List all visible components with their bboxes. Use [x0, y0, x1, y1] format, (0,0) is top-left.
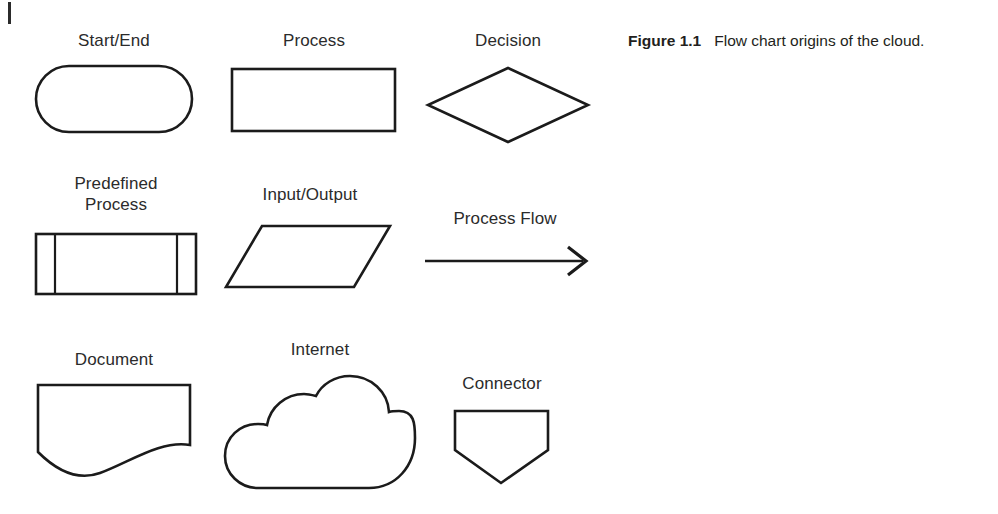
process-flow-arrow: [425, 247, 586, 275]
figure-caption-number: Figure 1.1: [628, 32, 701, 49]
document-shape: [38, 385, 190, 476]
label-document: Document: [34, 349, 194, 370]
label-process: Process: [234, 30, 394, 51]
start-end-shape: [36, 66, 192, 132]
figure-caption: Figure 1.1Flow chart origins of the clou…: [628, 30, 958, 51]
figure-caption-text: Flow chart origins of the cloud.: [714, 32, 924, 49]
label-process-flow: Process Flow: [424, 208, 586, 229]
label-internet: Internet: [240, 339, 400, 360]
connector-shape: [455, 411, 548, 483]
internet-cloud-shape: [225, 376, 415, 488]
label-start-end: Start/End: [34, 30, 194, 51]
label-predefined-process: Predefined Process: [36, 173, 196, 215]
figure-page: Start/End Process Decision Predefined Pr…: [0, 0, 998, 514]
decision-shape: [428, 68, 588, 142]
process-shape: [232, 69, 395, 131]
label-decision: Decision: [428, 30, 588, 51]
label-connector: Connector: [422, 373, 582, 394]
predefined-process-shape: [36, 234, 196, 294]
input-output-shape: [226, 226, 390, 287]
label-input-output: Input/Output: [228, 184, 392, 205]
flowchart-symbols-artwork: [0, 0, 998, 514]
